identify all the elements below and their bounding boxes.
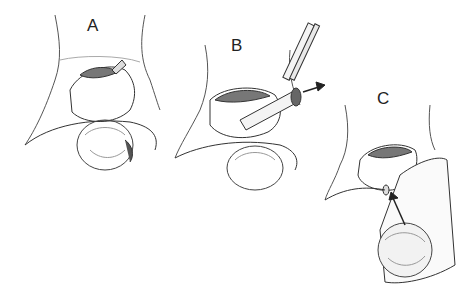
panel-b-drawing <box>175 23 325 190</box>
panel-label-c: C <box>377 89 389 109</box>
panel-label-a: A <box>87 16 98 36</box>
panel-a-drawing <box>25 15 160 170</box>
panel-c-drawing <box>325 105 455 283</box>
panel-label-b: B <box>231 36 242 56</box>
surgical-illustration-figure: A B C <box>0 0 475 304</box>
